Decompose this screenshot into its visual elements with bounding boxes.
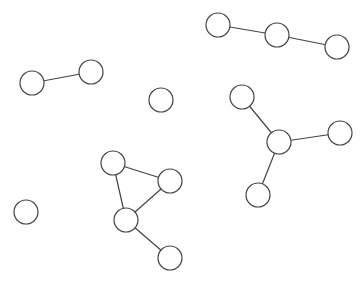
graph-node-F — [325, 35, 349, 59]
graph-node-K — [14, 200, 38, 224]
graph-node-N — [114, 208, 138, 232]
graph-node-B — [79, 60, 103, 84]
graph-node-O — [158, 246, 182, 270]
graph-canvas — [0, 0, 362, 281]
graph-node-E — [265, 23, 289, 47]
graph-node-L — [101, 151, 125, 175]
graph-node-A — [20, 71, 44, 95]
graph-node-I — [328, 121, 352, 145]
graph-node-C — [149, 88, 173, 112]
graph-node-H — [267, 130, 291, 154]
graph-node-M — [158, 169, 182, 193]
graph-node-J — [246, 183, 270, 207]
graph-nodes — [14, 13, 352, 270]
graph-edges — [32, 25, 340, 258]
graph-node-D — [206, 13, 230, 37]
graph-node-G — [230, 85, 254, 109]
